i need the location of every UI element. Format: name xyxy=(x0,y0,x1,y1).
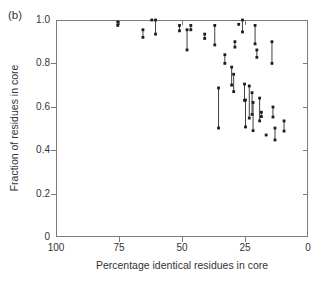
x-tick-label-75: 75 xyxy=(104,242,134,253)
data-point xyxy=(142,28,145,31)
data-point xyxy=(116,24,119,27)
data-point xyxy=(258,97,261,100)
data-point xyxy=(283,130,286,133)
data-point xyxy=(223,62,226,65)
data-point xyxy=(271,62,274,65)
y-tick-label-0.2: 0.2 xyxy=(26,188,50,199)
data-point xyxy=(274,139,277,142)
data-point xyxy=(178,29,181,32)
data-point xyxy=(186,49,189,52)
data-point xyxy=(150,19,153,22)
x-axis-title: Percentage identical residues in core xyxy=(56,259,308,271)
data-point xyxy=(186,28,189,31)
data-point xyxy=(189,28,192,31)
data-point xyxy=(274,127,277,130)
data-point xyxy=(223,53,226,56)
data-point xyxy=(260,111,263,114)
data-point xyxy=(272,116,275,119)
data-point xyxy=(116,21,119,24)
x-tick-label-25: 25 xyxy=(230,242,260,253)
data-point xyxy=(203,33,206,36)
data-point xyxy=(272,106,275,109)
data-point xyxy=(241,19,244,22)
data-point xyxy=(234,40,237,43)
scatter-plot-figure: (b) 00.20.40.60.81.0 1007550250 Percenta… xyxy=(0,0,327,281)
data-point xyxy=(154,19,157,22)
plot-frame xyxy=(57,21,308,237)
data-point xyxy=(232,73,235,76)
data-point xyxy=(258,120,261,123)
y-tick-label-1.0: 1.0 xyxy=(26,14,50,25)
y-tick-label-0.8: 0.8 xyxy=(26,57,50,68)
data-point xyxy=(230,66,233,69)
data-point xyxy=(237,23,240,26)
data-point xyxy=(189,24,192,27)
data-point xyxy=(243,83,246,86)
data-point xyxy=(255,56,258,59)
y-tick-label-0: 0 xyxy=(26,231,50,242)
data-point xyxy=(154,33,157,36)
data-point xyxy=(230,84,233,87)
data-point xyxy=(232,90,235,93)
data-point xyxy=(271,40,274,43)
data-point xyxy=(217,127,220,130)
data-point xyxy=(255,49,258,52)
data-point xyxy=(265,134,268,137)
data-point xyxy=(203,37,206,40)
data-point xyxy=(241,31,244,34)
y-tick-label-0.6: 0.6 xyxy=(26,101,50,112)
data-point xyxy=(254,42,257,45)
data-point xyxy=(244,126,247,129)
data-point xyxy=(244,99,247,102)
data-point xyxy=(178,24,181,27)
data-point xyxy=(254,24,257,27)
data-point xyxy=(213,24,216,27)
x-tick-label-50: 50 xyxy=(167,242,197,253)
y-tick-label-0.4: 0.4 xyxy=(26,144,50,155)
data-point xyxy=(142,36,145,39)
x-tick-label-0: 0 xyxy=(293,242,323,253)
data-point xyxy=(234,46,237,49)
data-point xyxy=(283,120,286,123)
data-point xyxy=(248,117,251,120)
data-point xyxy=(260,115,263,118)
x-tick-label-100: 100 xyxy=(41,242,71,253)
data-point xyxy=(213,44,216,47)
data-point xyxy=(252,101,255,104)
data-point xyxy=(217,87,220,90)
data-point xyxy=(252,129,255,132)
data-point xyxy=(248,85,251,88)
y-axis-title: Fraction of residues in core xyxy=(8,18,20,238)
data-point xyxy=(251,91,254,94)
